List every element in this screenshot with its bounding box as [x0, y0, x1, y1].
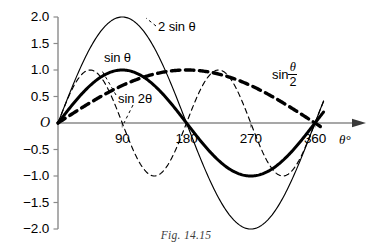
curve-label-2sin-theta: 2 sin θ: [158, 20, 196, 33]
curve-label-sin-2theta-text: sin 2θ: [118, 91, 152, 106]
curve-label-sin-theta-text: sin θ: [104, 50, 131, 65]
leader-line-2sin-theta: [146, 18, 156, 26]
y-tick-label-3: 0.5: [0, 90, 49, 104]
y-tick-label-5: −0.5: [0, 143, 49, 157]
x-tick-label-2: 270: [221, 132, 281, 146]
x-tick-label-1: 180: [157, 132, 217, 146]
figure-caption: Fig. 14.15: [0, 229, 372, 241]
axes-group: [54, 17, 367, 229]
y-tick-label-1: 1.5: [0, 37, 49, 51]
y-tick-label-6: −1.0: [0, 169, 49, 183]
x-axis-arrow-head: [352, 119, 366, 127]
y-tick-label-7: −1.5: [0, 196, 49, 210]
curve-label-sin-theta: sin θ: [104, 51, 131, 64]
x-tick-label-0: 90: [92, 132, 152, 146]
curve-label-sin-prefix: sin: [272, 67, 288, 82]
y-tick-label-0: 2.0: [0, 10, 49, 24]
curve-label-sin-2theta: sin 2θ: [118, 92, 152, 105]
leader-line-sin-2theta-lower: [124, 105, 133, 123]
x-axis-title: θ°: [339, 133, 351, 146]
chart-plot-area: [0, 0, 372, 251]
curve-label-sin-theta-over-2: sinθ2: [272, 62, 297, 90]
fraction-theta-over-2: θ2: [288, 61, 297, 89]
curve-label-2sin-theta-text: 2 sin θ: [158, 19, 196, 34]
y-tick-label-2: 1.0: [0, 63, 49, 77]
origin-label: O: [40, 116, 50, 130]
figure-container: 2.01.51.00.5−0.5−1.0−1.5−2.0 90180270360…: [0, 0, 372, 251]
fraction-denominator: 2: [288, 76, 297, 89]
x-tick-label-3: 360: [285, 132, 345, 146]
fraction-numerator: θ: [289, 61, 297, 74]
